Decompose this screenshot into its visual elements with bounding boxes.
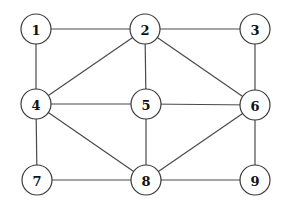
node-label: 4 bbox=[31, 98, 40, 113]
edge-4-8 bbox=[36, 104, 146, 180]
node-4: 4 bbox=[21, 89, 51, 119]
node-8: 8 bbox=[131, 165, 161, 195]
edge-2-6 bbox=[145, 29, 255, 105]
node-label: 6 bbox=[250, 99, 259, 114]
graph-diagram: 123456789 bbox=[0, 0, 286, 209]
node-label: 1 bbox=[31, 23, 40, 38]
node-label: 2 bbox=[140, 23, 149, 38]
node-6: 6 bbox=[240, 90, 270, 120]
node-7: 7 bbox=[22, 165, 52, 195]
node-label: 8 bbox=[141, 174, 150, 189]
node-label: 5 bbox=[141, 98, 150, 113]
edge-6-8 bbox=[146, 105, 255, 180]
node-9: 9 bbox=[240, 165, 270, 195]
node-label: 7 bbox=[32, 174, 41, 189]
node-label: 9 bbox=[250, 174, 259, 189]
node-2: 2 bbox=[130, 14, 160, 44]
node-5: 5 bbox=[131, 89, 161, 119]
edge-2-4 bbox=[36, 29, 145, 104]
node-label: 3 bbox=[250, 23, 259, 38]
edge-5-6 bbox=[146, 104, 255, 105]
node-3: 3 bbox=[240, 14, 270, 44]
node-1: 1 bbox=[21, 14, 51, 44]
